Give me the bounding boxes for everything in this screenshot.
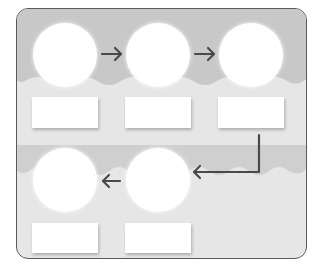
diagram-frame bbox=[16, 8, 307, 259]
arrows-layer bbox=[17, 9, 306, 258]
arrow-right-icon bbox=[102, 48, 121, 60]
arrow-elbow-icon bbox=[194, 135, 259, 178]
arrow-left-icon bbox=[103, 175, 120, 187]
arrow-right-icon bbox=[195, 48, 214, 60]
